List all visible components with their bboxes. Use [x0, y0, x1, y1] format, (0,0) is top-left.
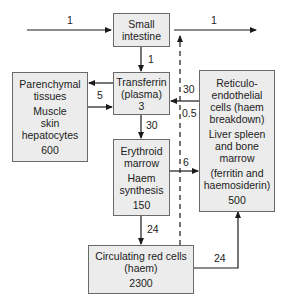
node-value: 2300 [129, 277, 152, 289]
node-circulating-red-cells: Circulating red cells (haem) 2300 [88, 245, 194, 294]
edge-label-re-to-transferrin: 30 [183, 84, 195, 95]
edge-label-absorption: 1 [148, 54, 154, 65]
node-label: Erythroid [120, 145, 162, 157]
edge-label-intake: 1 [67, 15, 73, 26]
node-sublabel: haemosiderin) [204, 179, 271, 191]
node-small-intestine: Small intestine [113, 13, 170, 47]
node-sublabel: Muscle [33, 105, 66, 117]
node-label: tissues [34, 90, 67, 102]
node-sublabel: synthesis [120, 184, 164, 196]
node-label: (plasma) [121, 88, 162, 100]
node-value: 150 [133, 199, 151, 211]
node-value: 600 [41, 144, 59, 156]
edge-label-to-marrow: 30 [146, 120, 158, 131]
node-sublabel: marrow [219, 152, 254, 164]
node-value: 500 [228, 194, 246, 206]
node-label: Small [128, 18, 154, 30]
edge-label-dashed-loss: 0.5 [182, 108, 197, 119]
node-reticuloendothelial: Reticulo- endothelial cells (haem breakd… [199, 70, 275, 212]
node-parenchymal: Parenchymal tissues Muscle skin hepatocy… [12, 72, 88, 162]
node-label: Reticulo- [216, 77, 257, 89]
node-sublabel: and bone [215, 140, 259, 152]
node-label: Parenchymal [19, 78, 80, 90]
node-sublabel: Haem [127, 172, 155, 184]
edge-label-senescence: 24 [214, 253, 226, 264]
node-sublabel: (ferritin and [210, 167, 263, 179]
node-label: marrow [124, 157, 159, 169]
node-label: cells (haem [210, 101, 264, 113]
node-label: endothelial [212, 89, 263, 101]
node-transferrin: Transferrin (plasma) 3 [113, 72, 170, 115]
node-sublabel: skin [41, 117, 60, 129]
node-label: breakdown) [210, 113, 265, 125]
node-sublabel: hepatocytes [22, 129, 79, 141]
edge-label-parenchymal-exchange: 5 [97, 90, 103, 101]
edge-label-to-rbc: 24 [147, 224, 159, 235]
node-label: Transferrin [116, 76, 166, 88]
node-value: 3 [139, 100, 145, 112]
edge-label-loss: 1 [211, 15, 217, 26]
node-label: intestine [122, 30, 161, 42]
edge-label-ineffective: 6 [183, 157, 189, 168]
node-label: (haem) [124, 262, 157, 274]
node-label: Circulating red cells [95, 250, 187, 262]
node-erythroid: Erythroid marrow Haem synthesis 150 [113, 139, 170, 216]
node-sublabel: Liver spleen [209, 128, 266, 140]
